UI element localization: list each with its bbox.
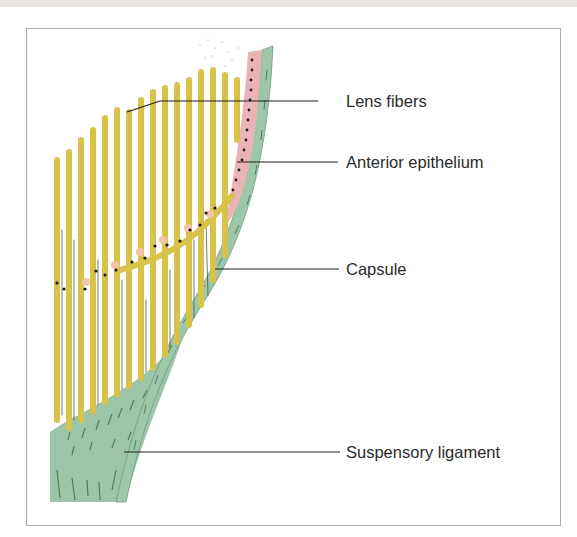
label-anterior-epithelium: Anterior epithelium [346, 153, 484, 171]
speckle-cloud [199, 39, 239, 67]
label-lens-fibers: Lens fibers [346, 92, 427, 110]
label-suspensory-ligament: Suspensory ligament [346, 443, 500, 461]
label-capsule: Capsule [346, 260, 407, 278]
